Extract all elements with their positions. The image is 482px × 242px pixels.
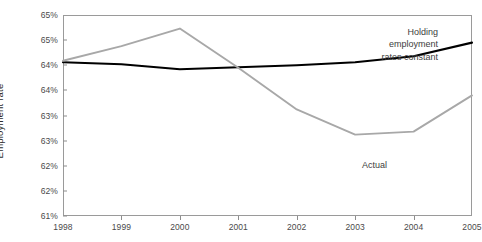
y-axis-tick (63, 216, 67, 217)
y-axis-tick (63, 115, 67, 116)
y-axis-tick (63, 140, 67, 141)
annotation-actual: Actual (362, 160, 387, 170)
annotation-line-3: rates constant (286, 51, 438, 63)
x-axis-tick (121, 216, 122, 220)
y-axis-tick (63, 165, 67, 166)
annotation-line-2: employment (286, 38, 438, 50)
annotation-holding-employment-rates-constant: Holding employment rates constant (286, 26, 438, 63)
x-axis-tick-label: 2004 (404, 222, 423, 232)
x-axis-tick-label: 2003 (345, 222, 364, 232)
x-axis-tick-label: 1999 (112, 222, 131, 232)
y-axis-tick (63, 40, 67, 41)
annotation-line-1: Holding (286, 26, 438, 38)
y-axis-tick (63, 190, 67, 191)
y-axis-tick (63, 90, 67, 91)
x-axis-tick-label: 2001 (229, 222, 248, 232)
x-axis-tick-label: 2002 (287, 222, 306, 232)
x-axis-tick (238, 216, 239, 220)
x-axis-tick (355, 216, 356, 220)
y-axis-tick (63, 65, 67, 66)
x-axis-tick-label: 2005 (462, 222, 481, 232)
x-axis-tick (414, 216, 415, 220)
x-axis-tick (180, 216, 181, 220)
x-axis-tick (297, 216, 298, 220)
x-axis-tick-label: 2000 (170, 222, 189, 232)
x-axis-tick-label: 1998 (53, 222, 72, 232)
